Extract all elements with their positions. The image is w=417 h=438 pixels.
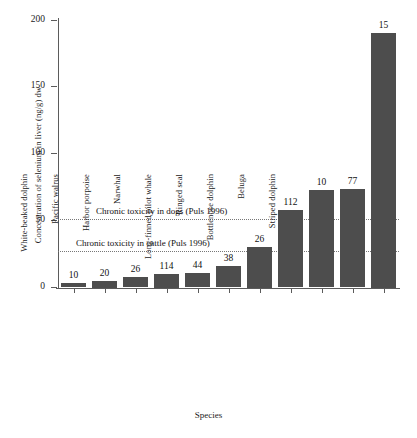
bar	[340, 189, 365, 288]
x-tick-mark	[260, 289, 261, 293]
bar-value-label: 10	[308, 178, 336, 188]
bar	[309, 190, 334, 288]
x-tick-mark	[322, 289, 323, 293]
bar-value-label: 15	[370, 21, 398, 31]
bar-value-label: 77	[339, 177, 367, 187]
x-tick-mark	[291, 289, 292, 293]
x-category-label: Bottlenose dolphin	[205, 174, 215, 294]
x-tick-mark	[353, 289, 354, 293]
bar	[371, 33, 396, 287]
x-category-label: Long-finned pilot whale	[143, 174, 153, 294]
y-tick-label-150: 150	[5, 80, 45, 90]
x-category-label: Beluga	[236, 174, 246, 294]
y-tick-label-200: 200	[5, 14, 45, 24]
y-tick-mark-200	[51, 20, 57, 21]
x-tick-mark	[384, 289, 385, 293]
x-tick-mark	[167, 289, 168, 293]
x-axis-title: Species	[0, 410, 417, 420]
y-tick-mark-150	[51, 86, 57, 87]
y-tick-label-100: 100	[5, 147, 45, 157]
bar	[278, 210, 303, 288]
y-tick-mark-100	[51, 153, 57, 154]
x-tick-mark	[105, 289, 106, 293]
x-category-label: White-beaked dolphin	[19, 174, 29, 294]
x-category-label: Striped dolphin	[267, 174, 277, 294]
x-tick-mark	[74, 289, 75, 293]
x-category-label: Pacific walrus	[50, 174, 60, 294]
x-category-label: Harbor porpoise	[81, 174, 91, 294]
bar-value-label: 112	[277, 198, 305, 208]
x-tick-mark	[229, 289, 230, 293]
x-tick-mark	[198, 289, 199, 293]
x-tick-mark	[136, 289, 137, 293]
y-axis-title: Concentration of selenium in liver (ng/g…	[33, 35, 43, 295]
x-category-label: Narwhal	[112, 174, 122, 294]
selenium-bar-chart: Concentration of selenium in liver (ng/g…	[0, 0, 417, 438]
x-category-label: Ringed seal	[174, 174, 184, 294]
